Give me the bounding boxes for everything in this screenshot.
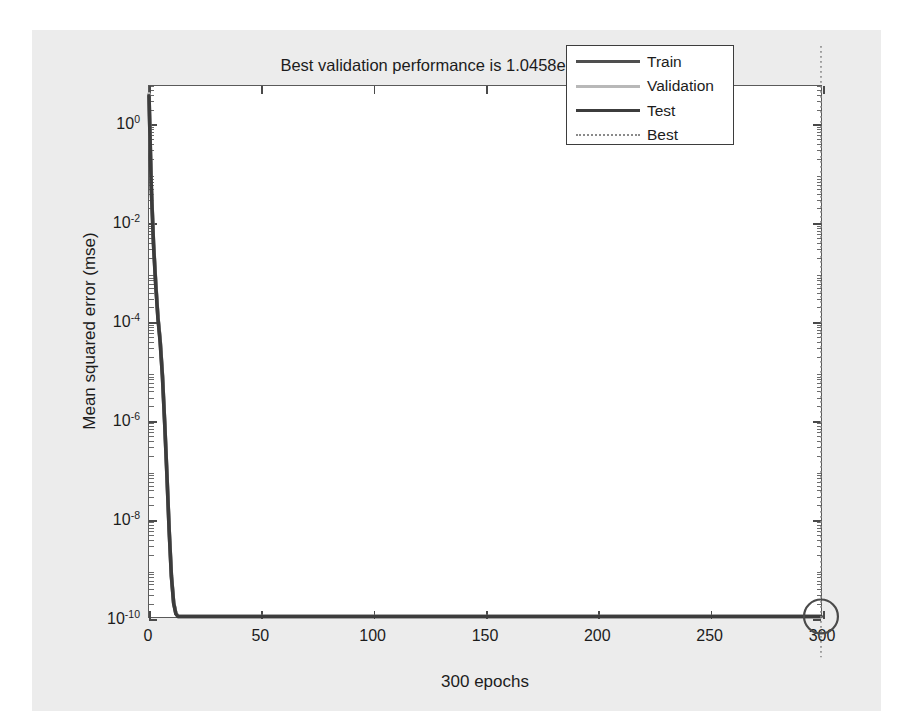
x-tick-label: 150 [440,627,530,645]
y-tick-major [149,619,157,621]
legend-label: Best [647,126,678,144]
legend-swatch-best-icon [576,134,640,136]
legend-item-validation[interactable]: Validation [567,74,733,99]
x-axis-label: 300 epochs [148,672,822,692]
x-tick-label: 300 [777,627,867,645]
figure-panel: Best validation performance is 1.0458e-1… [32,30,881,711]
y-tick-label: 10-2 [50,212,140,232]
x-tick-major [823,611,825,619]
plot-area [148,85,822,618]
chart-canvas [149,86,821,617]
x-tick-label: 200 [552,627,642,645]
legend-item-test[interactable]: Test [567,98,733,123]
y-tick-label: 10-6 [50,410,140,430]
y-tick-label: 100 [50,113,140,133]
chart-legend: TrainValidationTestBest [566,45,734,145]
y-tick-label: 10-8 [50,509,140,529]
x-tick-label: 100 [328,627,418,645]
legend-swatch-validation-icon [576,85,640,88]
x-tick-label: 50 [215,627,305,645]
x-tick-label: 250 [665,627,755,645]
legend-label: Test [647,102,675,120]
series-line-train [149,95,821,617]
legend-item-train[interactable]: Train [567,49,733,74]
y-tick-label: 10-4 [50,311,140,331]
series-line-validation [149,94,821,617]
legend-swatch-train-icon [576,60,640,63]
series-line-test [149,96,821,617]
legend-label: Train [647,53,682,71]
x-tick-major [823,86,825,94]
x-tick-label: 0 [103,627,193,645]
y-tick-label: 10-10 [50,608,140,628]
legend-item-best[interactable]: Best [567,123,733,148]
legend-label: Validation [647,77,714,95]
y-tick-major [813,619,821,621]
legend-swatch-test-icon [576,109,640,112]
